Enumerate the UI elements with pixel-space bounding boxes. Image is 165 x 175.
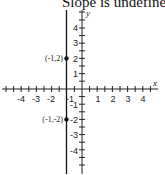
point-neg1-2	[64, 56, 68, 60]
x-tick-label: -3	[32, 94, 40, 104]
x-axis-label: x	[152, 78, 157, 88]
x-tick-label: 4	[140, 94, 145, 104]
y-tick-label: 1	[73, 69, 78, 79]
y-axis	[79, 10, 85, 174]
x-tick-label: -2	[47, 94, 55, 104]
y-tick-label: 2	[73, 54, 78, 64]
x-axis	[2, 86, 158, 92]
x-tick-label: 1	[95, 94, 100, 104]
point-label-b: (-1,-2)	[42, 115, 63, 124]
y-tick-label: -3	[70, 130, 78, 140]
y-tick-label: -2	[70, 115, 78, 125]
y-axis-label: y	[85, 8, 90, 18]
point-neg1-neg2	[64, 117, 68, 121]
point-label-a: (-1,2)	[45, 54, 63, 63]
coordinate-plane: (-1,2) (-1,-2) y x -4 -3 -2 -1 1 2 3 4 4…	[0, 0, 165, 175]
x-tick-label: -4	[17, 94, 25, 104]
x-tick-label: 3	[125, 94, 130, 104]
y-tick-label: -1	[70, 100, 78, 110]
y-tick-label: 3	[73, 38, 78, 48]
x-tick-label: 2	[110, 94, 115, 104]
y-tick-label: 4	[73, 23, 78, 33]
y-tick-label: -4	[70, 146, 78, 156]
